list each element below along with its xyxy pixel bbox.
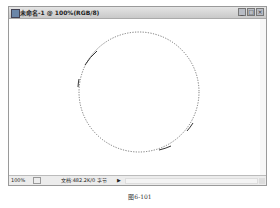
document-info: 文档:482.2K/0 字节 — [61, 176, 107, 184]
maximize-button[interactable]: □ — [247, 8, 255, 16]
horizontal-scrollbar[interactable] — [125, 178, 258, 184]
close-button[interactable]: × — [256, 8, 264, 16]
photoshop-doc-icon — [11, 9, 20, 18]
zoom-level[interactable]: 100% — [11, 176, 25, 184]
circle-selection — [9, 19, 268, 178]
navigator-icon[interactable] — [33, 177, 41, 184]
window-title: 未命名-1 @ 100%(RGB/8) — [20, 8, 99, 17]
document-window: 未命名-1 @ 100%(RGB/8) _ □ × 100% 文档:482.2K… — [8, 6, 267, 186]
selection-segment — [85, 51, 97, 65]
resize-grip-icon[interactable] — [259, 178, 265, 184]
status-bar: 100% 文档:482.2K/0 字节 ▶ — [9, 175, 266, 185]
title-bar[interactable]: 未命名-1 @ 100%(RGB/8) _ □ × — [9, 7, 266, 19]
minimize-button[interactable]: _ — [238, 8, 246, 16]
vertical-scrollbar[interactable] — [260, 19, 266, 176]
figure-caption: 图6-101 — [0, 192, 280, 201]
status-menu-arrow-icon[interactable]: ▶ — [117, 176, 121, 184]
canvas[interactable] — [9, 19, 266, 176]
